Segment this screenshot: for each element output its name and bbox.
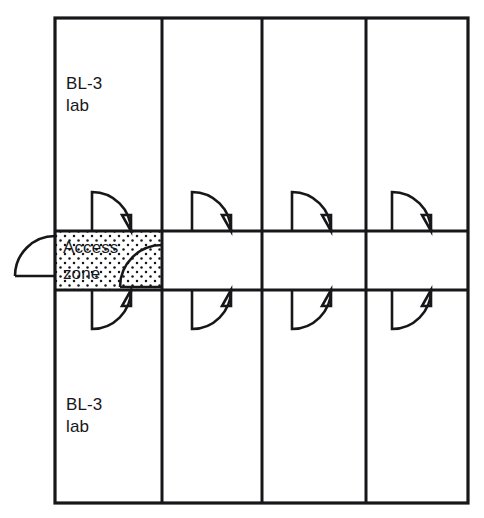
label-access-zone-line1: Access [63, 238, 118, 257]
label-lower-lab-line1: BL-3 [66, 395, 102, 414]
door-lower-lab-4 [392, 290, 431, 329]
label-access-zone-line2: zone [63, 264, 100, 283]
label-upper-lab-line1: BL-3 [66, 74, 102, 93]
door-lower-lab-3 [292, 290, 331, 329]
door-lower-lab-1 [92, 290, 131, 329]
floor-plan-diagram: BL-3 lab Access zone BL-3 lab [0, 0, 484, 518]
door-upper-lab-2 [192, 192, 231, 231]
label-upper-lab-line2: lab [66, 96, 89, 115]
door-lower-lab-2 [192, 290, 231, 329]
door-exterior-entry [15, 236, 55, 276]
door-upper-lab-4 [392, 192, 431, 231]
door-upper-lab-1 [92, 192, 131, 231]
label-lower-lab-line2: lab [66, 417, 89, 436]
door-upper-lab-3 [292, 192, 331, 231]
